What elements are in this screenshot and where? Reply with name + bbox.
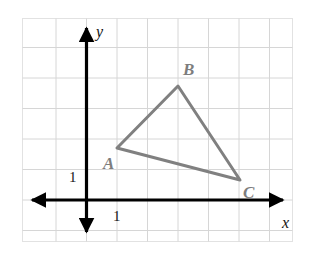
vertex-label-a: A <box>103 155 114 172</box>
axis-label-y: y <box>96 24 103 40</box>
y-axis-tick-label-1: 1 <box>69 170 77 185</box>
x-axis-tick-label-1: 1 <box>113 209 121 224</box>
plot-frame <box>23 19 293 242</box>
coordinate-plane-svg <box>0 0 315 262</box>
axis-label-x: x <box>282 215 289 231</box>
vertex-label-c: C <box>243 184 254 201</box>
coordinate-plane-figure: A B C y x 1 1 <box>0 0 315 262</box>
vertex-label-b: B <box>183 61 194 78</box>
